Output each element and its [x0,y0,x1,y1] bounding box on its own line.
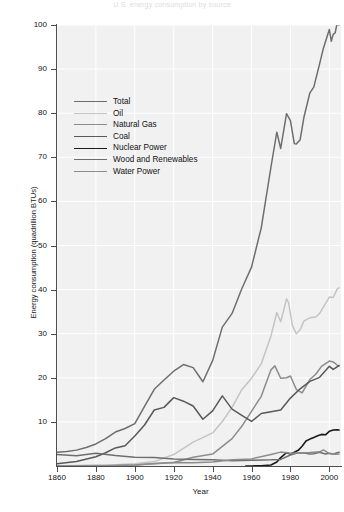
legend-item-label: Nuclear Power [113,142,167,154]
y-tick-label: 80 [7,108,47,117]
x-tick-label: 1860 [37,473,77,482]
series-line-water-power [57,450,339,466]
legend-item-total: Total [74,96,198,108]
x-axis-label: Year [57,487,344,496]
x-tick-label: 1940 [193,473,233,482]
chart-figure: U.S. energy consumption by source Energy… [0,0,344,512]
legend-item-nuclear-power: Nuclear Power [74,142,198,154]
y-tick-mark [51,69,56,70]
legend-line-swatch [74,113,107,114]
legend-item-natural-gas: Natural Gas [74,119,198,131]
y-tick-label: 20 [7,373,47,382]
x-tick-mark [252,467,253,472]
y-tick-mark [51,422,56,423]
legend-item-coal: Coal [74,131,198,143]
legend-item-label: Wood and Renewables [113,154,198,166]
legend-item-label: Total [113,96,130,108]
series-line-oil [57,288,339,466]
legend-item-label: Oil [113,108,123,120]
y-tick-mark [51,201,56,202]
y-tick-mark [51,290,56,291]
legend-item-water-power: Water Power [74,166,198,178]
x-tick-label: 2000 [309,473,344,482]
legend-line-swatch [74,101,107,102]
legend-item-label: Natural Gas [113,119,157,131]
x-tick-label: 1980 [270,473,310,482]
x-tick-mark [290,467,291,472]
y-tick-label: 70 [7,152,47,161]
x-tick-label: 1960 [232,473,272,482]
x-tick-mark [329,467,330,472]
chart-title: U.S. energy consumption by source [0,0,344,9]
y-tick-mark [51,25,56,26]
plot-area [57,25,341,466]
y-axis-line [56,24,57,467]
y-tick-label: 60 [7,196,47,205]
series-line-coal [57,365,339,463]
chart-legend: TotalOilNatural GasCoalNuclear PowerWood… [74,96,198,177]
y-tick-mark [51,113,56,114]
x-axis-line [56,466,342,467]
legend-item-wood-and-renewables: Wood and Renewables [74,154,198,166]
y-tick-label: 40 [7,285,47,294]
x-tick-mark [96,467,97,472]
legend-item-label: Coal [113,131,130,143]
y-tick-label: 30 [7,329,47,338]
legend-line-swatch [74,148,107,149]
x-tick-mark [174,467,175,472]
legend-item-label: Water Power [113,166,160,178]
y-tick-mark [51,157,56,158]
y-tick-label: 90 [7,64,47,73]
y-tick-mark [51,246,56,247]
x-tick-label: 1880 [76,473,116,482]
y-tick-mark [51,378,56,379]
x-tick-mark [213,467,214,472]
plot-canvas [57,25,341,466]
legend-item-oil: Oil [74,108,198,120]
legend-line-swatch [74,124,107,125]
legend-line-swatch [74,171,107,172]
x-tick-label: 1920 [154,473,194,482]
y-axis-label: Energy consumption (quadrillion BTUs) [29,158,38,348]
x-tick-mark [135,467,136,472]
legend-line-swatch [74,159,107,160]
x-tick-label: 1900 [115,473,155,482]
y-tick-mark [51,334,56,335]
x-tick-mark [57,467,58,472]
legend-line-swatch [74,136,107,137]
y-tick-label: 50 [7,241,47,250]
series-line-total [57,25,339,452]
y-tick-label: 10 [7,417,47,426]
y-tick-label: 100 [7,20,47,29]
